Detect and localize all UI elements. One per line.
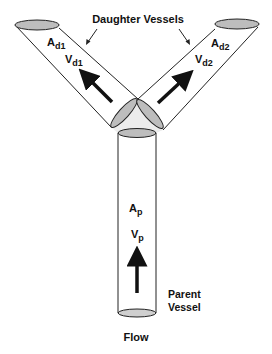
area-d1-label: Ad1 [47,36,65,51]
flow-arrow-daughter-1 [86,76,112,102]
parent-top-ellipse [118,129,156,138]
parent-label-line1: Parent [168,288,201,300]
flow-arrow-daughter-2 [158,77,186,103]
area-p-label: Ap [129,202,143,217]
daughter-vessels-label: Daughter Vessels [92,13,184,25]
daughter-2-opening [215,19,259,29]
bifurcation-diagram: Daughter Vessels Ad1 Vd1 Ad2 Vd2 Ap Vp P… [0,0,272,354]
daughter-vessel-2 [134,19,259,131]
parent-bottom-opening [118,309,156,317]
velocity-p-label: Vp [131,228,144,243]
velocity-d2-label: Vd2 [195,53,213,68]
velocity-d1-label: Vd1 [65,53,83,68]
parent-label-line2: Vessel [168,301,201,313]
daughter-1-opening [15,20,59,30]
area-d2-label: Ad2 [211,37,229,52]
title-pointer-arrows [86,29,190,45]
flow-label: Flow [123,331,148,343]
daughter-vessel-1 [15,20,140,130]
